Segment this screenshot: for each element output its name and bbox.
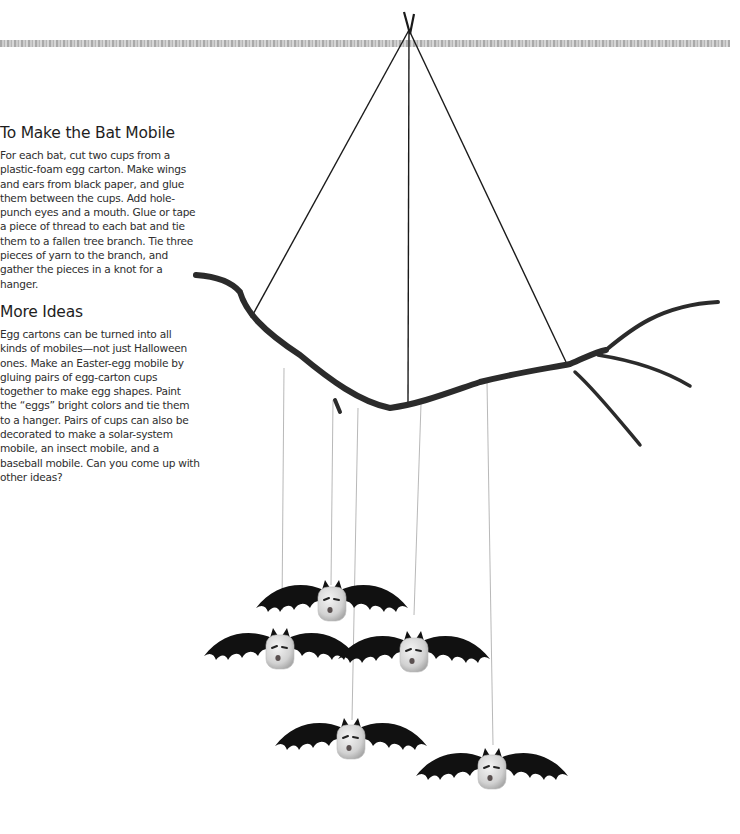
hanger-yarn xyxy=(251,12,566,403)
tree-branch xyxy=(196,275,718,445)
bat-1 xyxy=(256,580,408,621)
bat-threads xyxy=(282,368,493,745)
bat-mobile-illustration xyxy=(0,0,740,834)
bat-2 xyxy=(204,628,356,669)
bat-5 xyxy=(416,748,568,789)
bat-3 xyxy=(338,631,490,672)
bat-4 xyxy=(275,718,427,759)
